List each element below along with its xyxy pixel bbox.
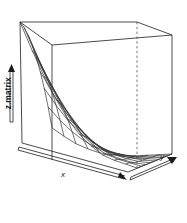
x-axis-ruler-cap-start — [18, 147, 19, 150]
perspective-plot-root: x y z.matrix — [0, 0, 187, 223]
box-floor-front-left-edge — [22, 143, 128, 172]
x-axis-label: x — [61, 171, 65, 179]
y-axis-ruler-line — [130, 161, 174, 180]
mesh-line-row — [28, 35, 146, 165]
box-left-vertical-edge — [20, 22, 22, 143]
mesh-line-column — [20, 22, 52, 128]
surface-wireframe-mesh — [20, 22, 172, 168]
mesh-line-row — [48, 107, 167, 156]
mesh-line-row — [24, 27, 141, 166]
axis-rulers — [10, 70, 175, 180]
surface-plot-canvas — [0, 0, 187, 223]
mesh-line-row — [44, 88, 163, 157]
box-top-face — [20, 22, 172, 45]
z-axis-label: z.matrix — [4, 71, 13, 115]
y-axis-label: y — [160, 153, 164, 161]
